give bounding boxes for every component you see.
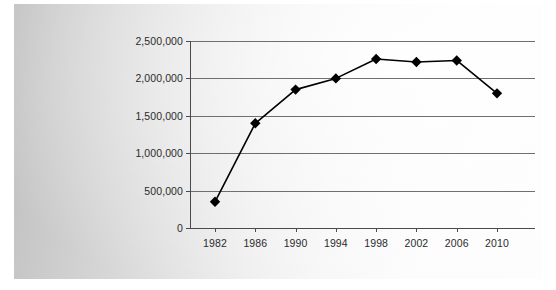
series-line [215, 59, 497, 202]
y-axis-tick-label: 1,500,000 [135, 110, 183, 122]
x-axis-tick [416, 228, 417, 232]
data-point-marker [210, 197, 220, 207]
y-axis-tick-label: 0 [177, 222, 183, 234]
x-axis-tick-label: 1998 [364, 237, 388, 249]
x-axis-tick-label: 1990 [284, 237, 308, 249]
y-axis-tick-label: 2,000,000 [135, 72, 183, 84]
x-axis-tick-label: 2010 [485, 237, 509, 249]
chart-figure: 0500,0001,000,0001,500,0002,000,0002,500… [0, 0, 556, 290]
x-axis-tick [457, 228, 458, 232]
x-axis-tick-label: 1986 [243, 237, 267, 249]
x-axis-tick [336, 228, 337, 232]
x-axis-tick [296, 228, 297, 232]
series-markers [210, 54, 502, 207]
y-axis-tick-label: 2,500,000 [135, 35, 183, 47]
y-axis-tick-label: 500,000 [144, 185, 183, 197]
x-axis-tick [376, 228, 377, 232]
x-axis-tick [215, 228, 216, 232]
data-point-marker [371, 54, 381, 64]
data-point-marker [411, 57, 421, 67]
series-line-chart [191, 41, 535, 228]
x-axis-tick-label: 2002 [405, 237, 429, 249]
gridline [191, 228, 535, 229]
data-point-marker [331, 73, 341, 83]
plot-area: 0500,0001,000,0001,500,0002,000,0002,500… [191, 41, 535, 228]
x-axis-tick-label: 1994 [324, 237, 348, 249]
y-axis-tick [186, 228, 191, 229]
x-axis-tick-label: 2006 [445, 237, 469, 249]
chart-canvas: 0500,0001,000,0001,500,0002,000,0002,500… [14, 4, 542, 279]
x-axis-tick-label: 1982 [203, 237, 227, 249]
x-axis-tick [497, 228, 498, 232]
y-axis-tick-label: 1,000,000 [135, 147, 183, 159]
x-axis-tick [255, 228, 256, 232]
